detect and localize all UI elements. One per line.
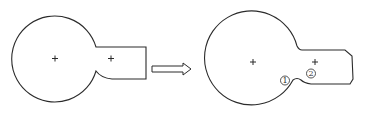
after-center-mark-circle: [250, 59, 256, 65]
after-outline: [205, 11, 353, 105]
label-1-text: 1: [282, 76, 287, 85]
before-shape: [12, 16, 146, 102]
after-shape: 1 2: [205, 11, 353, 105]
before-outline: [12, 16, 146, 102]
label-1-marker: 1: [281, 76, 290, 85]
before-center-mark-circle: [52, 56, 58, 62]
before-center-mark-tab: [108, 56, 114, 62]
after-center-mark-tab: [312, 59, 318, 65]
label-2-marker: 2: [307, 69, 316, 78]
transform-arrow-icon: [152, 63, 191, 75]
label-2-text: 2: [308, 69, 313, 78]
diagram-canvas: 1 2: [0, 0, 366, 118]
